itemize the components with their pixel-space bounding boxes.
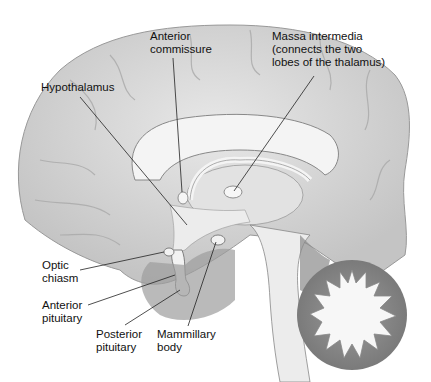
massa-intermedia (224, 186, 242, 198)
label-massa-intermedia: Massa intermedia (connects the two lobes… (272, 30, 385, 69)
optic-chiasm-structure (164, 248, 174, 256)
label-posterior-pituitary: Posterior pituitary (96, 328, 142, 354)
label-hypothalamus: Hypothalamus (41, 81, 115, 94)
label-anterior-pituitary: Anterior pituitary (42, 299, 82, 325)
label-optic-chiasm: Optic chiasm (42, 259, 78, 285)
mammillary-body-structure (211, 235, 225, 245)
label-mammillary-body: Mammillary body (157, 328, 216, 354)
anterior-commissure-structure (178, 192, 188, 204)
label-anterior-commissure: Anterior commissure (150, 30, 212, 56)
